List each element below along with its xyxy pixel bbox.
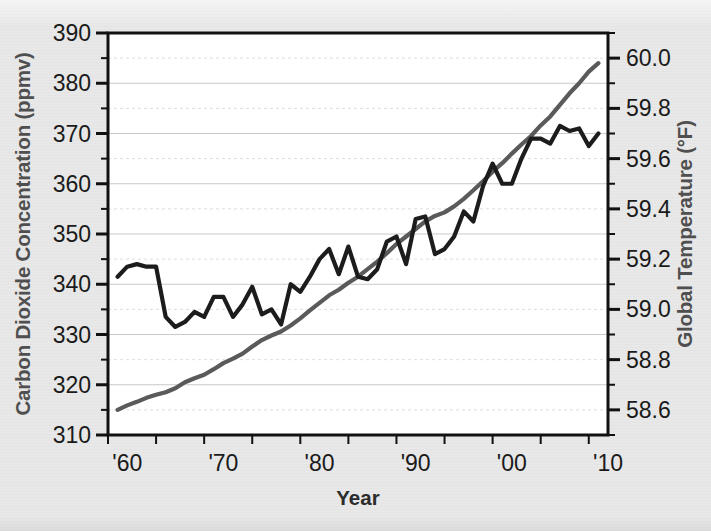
left-tick-label: 330: [53, 322, 91, 348]
left-tick-label: 360: [53, 171, 91, 197]
left-tick-label: 320: [53, 372, 91, 398]
right-tick-label: 59.2: [626, 246, 671, 272]
left-axis-title: Carbon Dioxide Concentration (ppmv): [11, 52, 34, 415]
left-tick-label: 390: [53, 20, 91, 46]
bottom-tick-label: '00: [497, 450, 527, 476]
bottom-tick-label: '10: [593, 450, 623, 476]
left-tick-label: 340: [53, 271, 91, 297]
bottom-tick-label: '70: [208, 450, 238, 476]
right-tick-label: 59.0: [626, 296, 671, 322]
left-tick-label: 310: [53, 422, 91, 448]
right-tick-label: 59.4: [626, 196, 671, 222]
left-tick-label: 350: [53, 221, 91, 247]
climate-dual-axis-line-chart: 390380370360350340330320310 60.059.859.6…: [0, 0, 711, 531]
x-axis-title: Year: [336, 486, 379, 509]
right-tick-label: 59.6: [626, 146, 671, 172]
bottom-axis-tick-labels: '60'70'80'90'00'10: [112, 450, 623, 476]
bottom-tick-label: '80: [305, 450, 335, 476]
right-tick-label: 59.8: [626, 95, 671, 121]
right-tick-label: 58.6: [626, 397, 671, 423]
left-tick-label: 370: [53, 121, 91, 147]
left-axis-ticks: [96, 33, 108, 435]
bottom-tick-label: '90: [401, 450, 431, 476]
right-axis-title: Global Temperature (°F): [673, 120, 696, 348]
bottom-tick-label: '60: [112, 450, 142, 476]
figure-panel: 390380370360350340330320310 60.059.859.6…: [0, 0, 711, 531]
right-tick-label: 60.0: [626, 45, 671, 71]
left-axis-tick-labels: 390380370360350340330320310: [53, 20, 91, 448]
left-tick-label: 380: [53, 70, 91, 96]
right-axis-tick-labels: 60.059.859.659.459.259.058.858.6: [626, 45, 671, 423]
right-axis-ticks: [608, 33, 620, 435]
right-tick-label: 58.8: [626, 347, 671, 373]
